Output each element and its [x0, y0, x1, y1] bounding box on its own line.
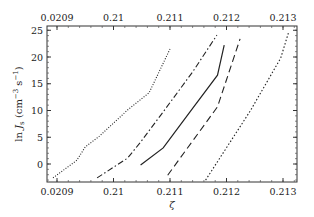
x-tick-label: 0.21	[103, 186, 124, 197]
minor-ticks	[47, 26, 297, 182]
x-tick-label: 0.211	[156, 186, 183, 197]
series-layer	[53, 32, 289, 180]
y-axis-title: ln Js (cm−3 s−1)	[12, 66, 26, 142]
chart: 0.02090.02090.210.210.2110.2110.2120.212…	[0, 0, 314, 217]
series-solid	[141, 45, 225, 165]
x-top-tick-label: 0.0209	[40, 12, 73, 23]
x-top-tick-label: 0.212	[213, 12, 240, 23]
series-dashed	[168, 39, 240, 175]
series-dotted	[53, 49, 170, 178]
plot-frame	[47, 26, 297, 182]
y-tick-label: 25	[31, 25, 43, 36]
y-tick-label: 0	[37, 159, 43, 170]
x-axis-title: ζ	[169, 199, 175, 210]
x-top-tick-label: 0.213	[269, 12, 296, 23]
series-dash-dot	[97, 35, 217, 178]
x-tick-label: 0.213	[269, 186, 296, 197]
y-tick-label: 20	[31, 52, 43, 63]
x-top-tick-label: 0.211	[156, 12, 183, 23]
series-fine-dotted	[206, 32, 289, 180]
x-top-tick-label: 0.21	[103, 12, 124, 23]
y-tick-label: 5	[37, 132, 43, 143]
x-tick-label: 0.212	[213, 186, 240, 197]
y-tick-label: 15	[31, 78, 43, 89]
x-tick-label: 0.0209	[40, 186, 73, 197]
y-tick-label: 10	[31, 105, 43, 116]
